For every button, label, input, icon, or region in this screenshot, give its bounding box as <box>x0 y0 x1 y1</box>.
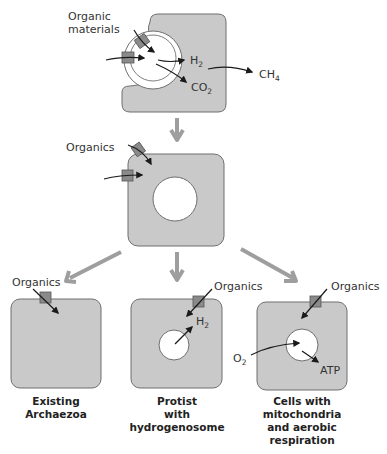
outcome-hydrogenosome: Organics H2 Protist with hydrogenosome <box>129 280 262 433</box>
caption-line: Existing <box>32 395 79 407</box>
caption-line: Protist <box>157 395 197 407</box>
gray-arrow-icon <box>171 118 183 140</box>
caption-line: and aerobic <box>267 421 337 433</box>
transporter-icon <box>193 296 204 307</box>
outcome-archaezoa: Organics Existing Archaezoa <box>11 276 101 420</box>
gray-arrow-icon <box>171 252 183 280</box>
label-organics-archaezoa: Organics <box>12 276 61 289</box>
caption-line: with <box>164 408 190 420</box>
gray-arrow-icon <box>241 249 296 281</box>
label-o2: O2 <box>233 352 247 367</box>
gray-arrow-icon <box>66 252 121 282</box>
label-organics-protist: Organics <box>214 280 263 293</box>
label-organic-materials-2: materials <box>68 23 120 36</box>
caption-line: respiration <box>269 434 334 446</box>
stage2-organelle <box>153 177 197 221</box>
caption-line: mitochondria <box>263 408 342 420</box>
label-atp: ATP <box>320 364 340 377</box>
mitochondrion-organelle <box>286 329 318 361</box>
stage1-host-cell <box>122 14 226 112</box>
label-organic-materials-1: Organic <box>68 10 111 23</box>
outcome-mitochondria: Organics O2 ATP Cells with mitochondria … <box>233 280 380 446</box>
endosymbiosis-diagram: Organic materials H2 CO2 CH4 Organics Or… <box>0 0 387 454</box>
caption-line: hydrogenosome <box>129 421 224 433</box>
archaezoa-cell <box>11 299 101 388</box>
label-organics-mito: Organics <box>331 280 380 293</box>
label-ch4: CH4 <box>259 68 280 83</box>
caption-line: Archaezoa <box>25 408 87 420</box>
label-organics-stage2: Organics <box>66 141 115 154</box>
caption-line: Cells with <box>273 395 331 407</box>
